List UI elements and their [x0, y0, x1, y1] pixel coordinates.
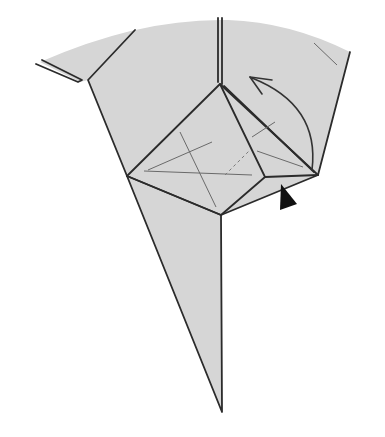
paper-body: [40, 20, 350, 412]
origami-diagram: [0, 0, 385, 437]
